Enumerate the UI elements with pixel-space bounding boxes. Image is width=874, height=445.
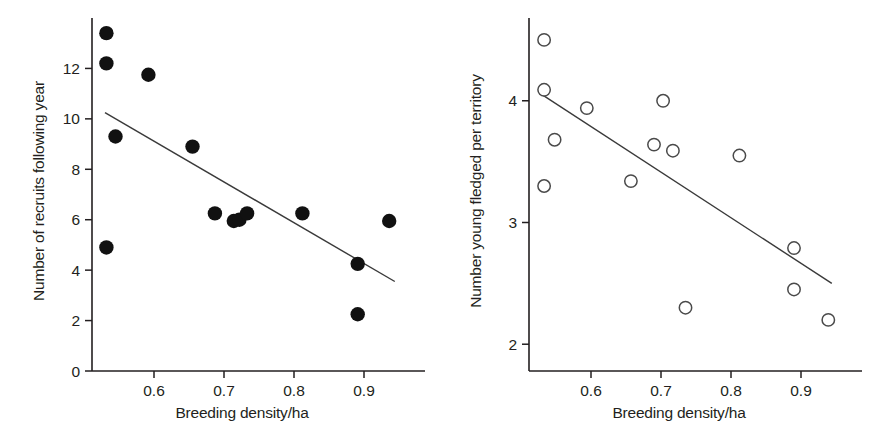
plot-area-left: 0246810120.60.70.80.9 [0,0,437,445]
regression-line [542,95,832,284]
data-point [667,144,679,156]
data-point [822,314,834,326]
y-tick-label: 12 [63,60,80,77]
y-tick-label: 10 [63,110,81,127]
data-point [185,139,199,153]
y-tick-label: 0 [71,363,80,380]
x-tick-label: 0.9 [790,382,812,399]
x-axis-label-right: Breeding density/ha [489,404,869,422]
data-point [538,84,550,96]
data-point [538,180,550,192]
y-tick-label: 4 [71,262,80,279]
x-tick-label: 0.7 [213,382,235,399]
data-point [108,129,122,143]
data-point [351,307,365,321]
y-tick-label: 6 [71,211,80,228]
y-tick-label: 8 [71,161,80,178]
x-tick-label: 0.8 [720,382,742,399]
data-point [99,26,113,40]
data-point [679,302,691,314]
data-point [788,242,800,254]
data-point [625,175,637,187]
x-tick-label: 0.6 [143,382,165,399]
y-tick-label: 2 [508,336,517,353]
y-tick-label: 3 [508,214,517,231]
data-point [208,206,222,220]
data-point [538,34,550,46]
regression-line [105,113,395,282]
data-point [99,56,113,70]
data-point [141,68,155,82]
data-point [733,149,745,161]
x-tick-label: 0.8 [283,382,305,399]
data-point [99,240,113,254]
data-point [657,95,669,107]
data-point [648,138,660,150]
data-point [788,283,800,295]
figure-two-panel-scatter: Number of recruits following year 024681… [0,0,874,445]
data-point [581,102,593,114]
data-point [548,134,560,146]
plot-area-right: 2340.60.70.80.9 [437,0,874,445]
panel-fledged: Number young fledged per territory 2340.… [437,0,874,445]
y-tick-label: 4 [508,92,517,109]
data-point [240,206,254,220]
panel-recruits: Number of recruits following year 024681… [0,0,437,445]
data-point [382,214,396,228]
x-axis-label-left: Breeding density/ha [52,404,432,422]
data-point [351,257,365,271]
x-tick-label: 0.9 [353,382,375,399]
y-tick-label: 2 [71,312,80,329]
data-point [295,206,309,220]
x-tick-label: 0.7 [650,382,672,399]
x-tick-label: 0.6 [580,382,602,399]
